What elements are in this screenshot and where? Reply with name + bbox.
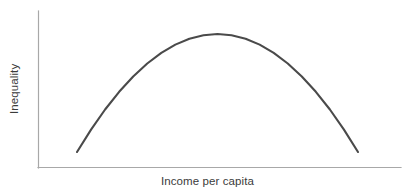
chart-plot-area: [0, 0, 415, 194]
kuznets-curve-path: [77, 34, 358, 152]
x-axis-label: Income per capita: [0, 175, 415, 187]
y-axis-label: Inequality: [8, 74, 20, 114]
kuznets-curve-figure: Inequality Income per capita: [0, 0, 415, 194]
